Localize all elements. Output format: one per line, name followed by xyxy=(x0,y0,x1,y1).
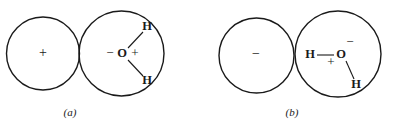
anion-charge-label-b: − xyxy=(252,46,260,61)
panel-label-b: (b) xyxy=(286,106,299,119)
oxygen-negative-charge-b: − xyxy=(346,34,353,49)
hydrogen-atom-lower-b: H xyxy=(351,77,361,91)
oxygen-positive-charge-b: + xyxy=(327,54,334,69)
panel-b-drawing: − H H O − + (b) xyxy=(0,0,396,127)
hydration-shell-figure: + − O + H H (a) − xyxy=(0,0,396,127)
hydrogen-atom-left-b: H xyxy=(305,47,315,61)
panel-b: − H H O − + (b) xyxy=(0,0,396,127)
oxygen-atom-label-b: O xyxy=(336,47,346,61)
